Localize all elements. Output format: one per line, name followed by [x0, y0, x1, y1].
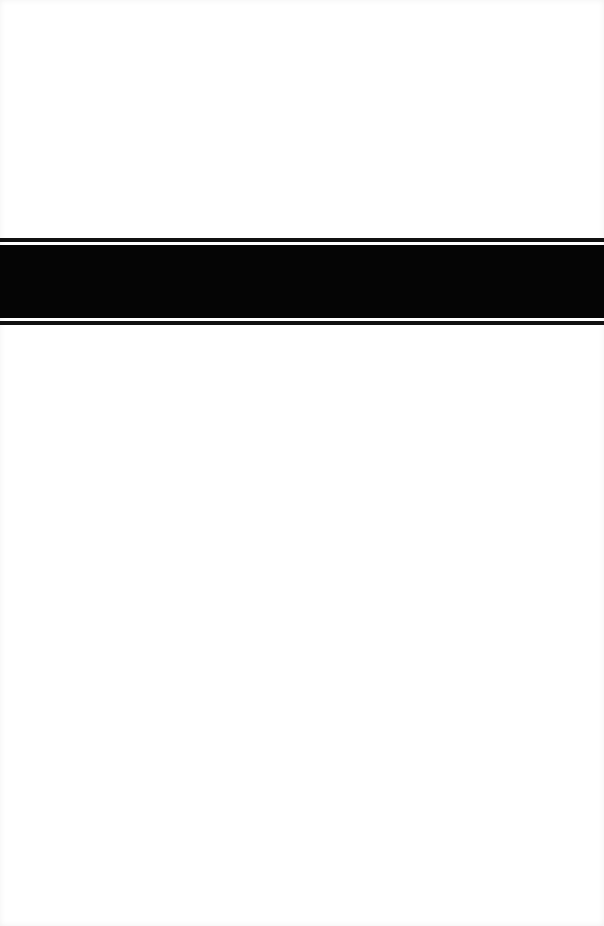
top-thin-rule	[0, 238, 604, 242]
bottom-thin-rule	[0, 321, 604, 325]
blank-page	[0, 0, 604, 926]
black-band	[0, 245, 604, 318]
